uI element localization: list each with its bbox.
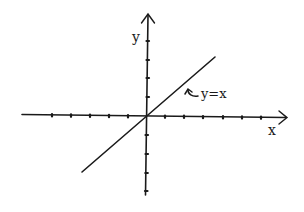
coordinate-plot: y=x y x	[0, 0, 304, 212]
y-axis	[142, 14, 155, 195]
x-axis	[22, 111, 287, 124]
curved-arrow-icon	[185, 89, 198, 96]
line-label: y=x	[200, 86, 227, 101]
y-axis-label: y	[131, 29, 140, 45]
x-axis-label: x	[268, 122, 276, 138]
